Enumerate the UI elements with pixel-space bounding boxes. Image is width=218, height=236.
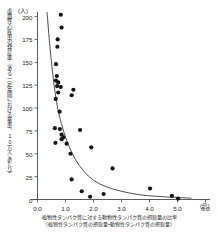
data-points <box>53 13 180 201</box>
data-point <box>58 110 62 114</box>
data-point <box>59 137 63 141</box>
data-point <box>56 37 60 41</box>
data-point <box>70 177 74 181</box>
data-point <box>54 97 58 101</box>
data-point <box>55 74 59 78</box>
data-point <box>55 84 59 88</box>
data-point <box>56 90 60 94</box>
data-point <box>89 145 93 149</box>
x-axis-caption-sub: （植物性タンパク質の摂取量÷動物性タンパク質の摂取量） <box>0 221 218 228</box>
x-axis-caption: 植物性タンパク質に対する動物性タンパク質の摂取量の比率 <box>0 214 218 221</box>
data-point <box>56 80 60 84</box>
data-point <box>71 88 75 92</box>
data-point <box>59 85 63 89</box>
data-point <box>65 142 69 146</box>
data-point <box>110 166 114 170</box>
data-point <box>59 25 63 29</box>
data-point <box>53 141 57 145</box>
data-point <box>88 195 92 199</box>
data-point <box>148 186 152 190</box>
data-point <box>78 128 82 132</box>
data-point <box>59 13 63 17</box>
data-point <box>53 126 57 130</box>
data-point <box>80 189 84 193</box>
scatter-plot-area <box>0 0 218 236</box>
data-point <box>176 196 180 200</box>
data-point <box>55 45 59 49</box>
data-point <box>170 194 174 198</box>
data-point <box>101 192 105 196</box>
trend-curve <box>47 12 191 198</box>
data-point <box>58 127 62 131</box>
data-point <box>68 152 72 156</box>
chart-figure: 虚血性心疾患の発症率（ある一定年間における罹患、10万人あたり） (人) (倍)… <box>0 0 218 236</box>
data-point <box>54 62 58 66</box>
data-point <box>70 93 74 97</box>
